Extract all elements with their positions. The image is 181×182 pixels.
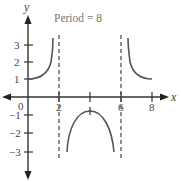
curve-branch-left [28,38,53,79]
curve-branch-middle [67,111,114,152]
y-tick-1: 1 [14,73,20,85]
x-tick-8: 8 [149,101,155,113]
y-axis-up-arrow-icon [25,15,32,24]
x-axis-label: x [170,90,177,104]
y-axis-down-arrow-icon [25,171,32,180]
origin-label: 0 [18,100,24,112]
chart-title: Period = 8 [54,12,102,24]
y-tick-3: 3 [14,39,20,51]
y-tick-neg2: −2 [9,127,21,139]
curve-branch-right [128,38,152,79]
y-tick-neg3: −3 [9,146,21,158]
x-axis-left-arrow-icon [2,94,11,101]
y-tick-2: 2 [14,56,20,68]
y-axis: y 3 2 1 −1 −2 −3 [9,0,33,180]
x-axis-right-arrow-icon [160,94,169,101]
secant-graph: Period = 8 y 3 2 1 −1 −2 −3 x 0 2 6 8 [0,0,181,182]
y-axis-label: y [23,0,30,14]
